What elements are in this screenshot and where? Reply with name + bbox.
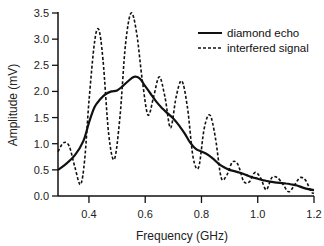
legend-label-interfered-signal: interfered signal	[227, 42, 309, 54]
y-tick-label: 1.5	[34, 112, 49, 124]
y-tick-label: 3.5	[34, 7, 49, 19]
x-tick-label: 0.8	[194, 208, 209, 220]
y-tick-label: 2.0	[34, 85, 49, 97]
y-tick-label: 2.5	[34, 59, 49, 71]
x-axis-label: Frequency (GHz)	[136, 229, 228, 243]
x-tick-label: 0.4	[81, 208, 96, 220]
y-tick-label: 0.5	[34, 164, 49, 176]
y-tick-label: 0.0	[34, 190, 49, 202]
x-tick-label: 0.6	[138, 208, 153, 220]
amplitude-frequency-chart: 0.00.51.01.52.02.53.03.50.40.60.81.01.2 …	[0, 0, 324, 246]
legend: diamond echo interfered signal	[198, 27, 309, 54]
y-tick-label: 3.0	[34, 33, 49, 45]
x-tick-label: 1.0	[250, 208, 265, 220]
series-lines	[58, 13, 314, 194]
x-tick-label: 1.2	[306, 208, 321, 220]
legend-label-diamond-echo: diamond echo	[227, 27, 299, 39]
y-axis-label: Amplitude (mV)	[6, 64, 20, 147]
y-tick-label: 1.0	[34, 138, 49, 150]
